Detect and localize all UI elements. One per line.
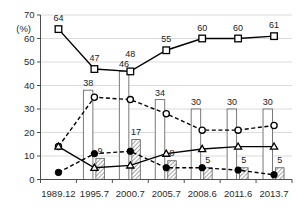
y-axis-tick-label: 60 [24,33,35,44]
open-square-marker [91,66,98,73]
y-axis-tick-label: 20 [24,127,35,138]
filled-circle-marker [163,165,169,171]
hatched-bar-label: 5 [241,155,246,165]
white-bar-label: 30 [191,97,201,107]
hatched-bar-label: 8 [169,148,174,158]
filled-circle-marker [199,165,205,171]
open-square-marker [235,35,242,42]
x-axis-tick-label: 2008.6 [188,188,217,199]
open-circle-marker [127,97,133,103]
white-bar-label: 30 [263,97,273,107]
hatched-bar-label: 5 [277,155,282,165]
square-series-label: 60 [233,23,243,33]
gray-hatched-bar [132,140,141,180]
x-axis-tick-label: 1989.12 [41,188,75,199]
hatched-bar-label: 17 [131,127,141,137]
white-bar [263,109,273,180]
y-axis-tick-label: 70 [24,9,35,20]
y-axis-tick-label: 10 [24,150,35,161]
open-circle-marker [235,127,241,133]
y-axis-tick-label: 40 [24,80,35,91]
square-series-label: 55 [161,34,171,44]
chart-background [0,0,299,207]
statistical-line-bar-chart: 010203040506070 (%) 64474855606061384634… [0,0,299,207]
open-square-marker [199,35,206,42]
chart-container: 010203040506070 (%) 64474855606061384634… [0,0,299,207]
open-square-marker [271,33,278,40]
filled-circle-marker [271,172,277,178]
open-circle-marker [271,122,277,128]
white-bar [119,71,129,179]
y-axis-tick-label: 0 [29,174,34,185]
x-axis-tick-label: 2011.6 [224,188,252,199]
filled-circle-marker [127,148,133,154]
x-axis-tick-label: 1995.7 [80,188,109,199]
white-bar-label: 38 [83,78,93,88]
filled-circle-marker [55,169,61,175]
y-axis-tick-label: 30 [24,103,35,114]
y-axis-unit-label: (%) [16,23,31,34]
open-square-marker [55,26,62,33]
filled-circle-marker [235,167,241,173]
white-bar-label: 34 [155,88,165,98]
square-series-label: 64 [53,13,63,23]
square-series-label: 61 [269,20,279,30]
x-axis-tick-label: 2000.7 [116,188,145,199]
white-bar-label: 30 [227,97,237,107]
y-axis-tick-label: 50 [24,56,35,67]
white-bar-label: 46 [119,59,129,69]
open-circle-marker [199,127,205,133]
open-circle-marker [91,94,97,100]
square-series-label: 47 [89,53,99,63]
hatched-bar-label: 5 [205,155,210,165]
x-axis-tick-label: 2013.7 [260,188,289,199]
x-axis-tick-label: 2005.7 [152,188,181,199]
open-square-marker [163,47,170,54]
square-series-label: 60 [197,23,207,33]
square-series-label: 48 [125,49,135,59]
hatched-bar-label: 9 [98,146,103,156]
open-circle-marker [163,111,169,117]
